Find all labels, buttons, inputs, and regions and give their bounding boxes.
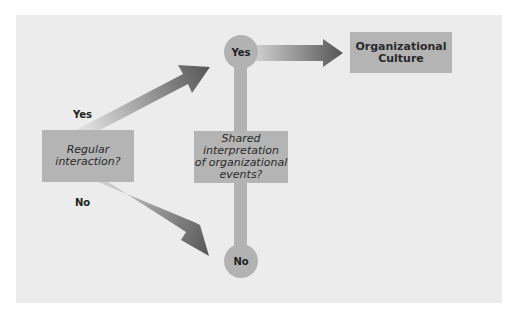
- yes-node: Yes: [224, 35, 258, 69]
- outcome-line-2: Culture: [355, 53, 446, 65]
- regular-interaction-decision: Regular interaction?: [42, 130, 134, 182]
- shared-interpretation-decision: Shared interpretation of organizational …: [194, 131, 288, 183]
- yes-node-label: Yes: [231, 47, 250, 58]
- organizational-culture-outcome: Organizational Culture: [350, 32, 452, 73]
- decision-2-line-4: events?: [195, 169, 288, 181]
- yes-branch-label: Yes: [73, 109, 92, 120]
- no-branch-label: No: [75, 197, 90, 208]
- no-arrow: [84, 182, 209, 256]
- yes-arrow: [76, 65, 210, 130]
- no-node-label: No: [233, 256, 248, 267]
- decision-1-line-2: interaction?: [55, 156, 120, 168]
- culture-arrow: [256, 39, 343, 67]
- no-node: No: [224, 244, 258, 278]
- outcome-line-1: Organizational: [355, 41, 446, 53]
